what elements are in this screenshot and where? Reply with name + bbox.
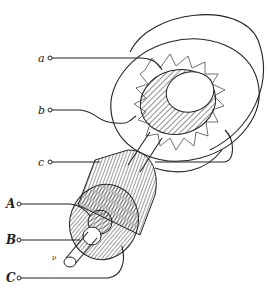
machine-diagram: ν a b c A B C bbox=[0, 0, 269, 290]
terminal-a-node bbox=[48, 56, 52, 60]
terminal-label-C: C bbox=[6, 271, 16, 285]
terminal-label-a: a bbox=[38, 52, 45, 65]
lead-a bbox=[52, 58, 162, 70]
terminal-a: a bbox=[38, 52, 162, 70]
terminal-A-node bbox=[17, 202, 21, 206]
rotor: ν bbox=[52, 150, 156, 269]
diagram-svg: ν a b c A B C bbox=[0, 0, 269, 290]
terminal-label-A: A bbox=[5, 197, 15, 211]
terminal-B-node bbox=[17, 238, 21, 242]
terminal-label-B: B bbox=[5, 233, 16, 247]
terminal-c-node bbox=[48, 160, 52, 164]
terminal-b: b bbox=[38, 104, 136, 123]
terminal-label-b: b bbox=[38, 104, 45, 117]
terminal-C-node bbox=[17, 276, 21, 280]
terminal-label-c: c bbox=[38, 156, 44, 169]
terminal-b-node bbox=[48, 108, 52, 112]
terminal-B: B bbox=[5, 233, 80, 247]
slip-ring bbox=[83, 227, 101, 245]
lead-b bbox=[52, 110, 136, 123]
shaft-label: ν bbox=[52, 254, 57, 262]
shaft-end bbox=[64, 257, 76, 267]
